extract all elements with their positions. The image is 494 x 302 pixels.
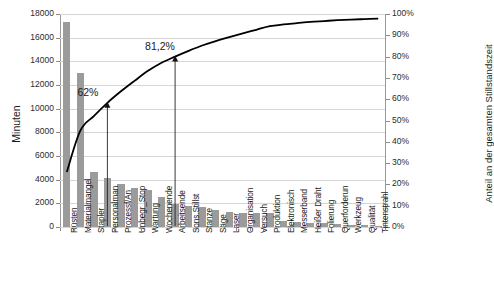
x-tick-mark — [344, 228, 345, 231]
x-tick-mark — [60, 228, 61, 231]
x-axis-label: Heißer Draht — [314, 187, 323, 233]
x-tick-mark — [304, 228, 305, 231]
x-tick-mark — [74, 228, 75, 231]
y-tick-label-right: 20% — [392, 178, 432, 188]
y-tick-mark-left — [56, 203, 60, 204]
x-tick-mark — [182, 228, 183, 231]
y-tick-label-right: 0% — [392, 221, 432, 231]
gridline — [60, 38, 385, 39]
x-axis-label: Materialmangel — [84, 178, 93, 233]
gridline — [60, 156, 385, 157]
x-axis-label: Unbegr_Stop — [138, 186, 147, 233]
y-tick-mark-left — [56, 180, 60, 181]
y-tick-label-left: 4000 — [10, 174, 54, 184]
y-tick-label-left: 16000 — [10, 32, 54, 42]
y-tick-label-left: 0 — [10, 221, 54, 231]
x-axis-label: Tintenstrahl — [381, 192, 390, 233]
y-tick-mark-left — [56, 85, 60, 86]
x-axis-label: Messerband — [300, 189, 309, 233]
y-tick-label-right: 10% — [392, 200, 432, 210]
y-tick-label-left: 14000 — [10, 55, 54, 65]
y-tick-label-right: 50% — [392, 115, 432, 125]
y-tick-mark-right — [386, 57, 390, 58]
x-tick-mark — [114, 228, 115, 231]
x-tick-mark — [223, 228, 224, 231]
x-tick-mark — [141, 228, 142, 231]
y-tick-label-right: 90% — [392, 29, 432, 39]
y-tick-label-left: 8000 — [10, 126, 54, 136]
y-tick-mark-left — [56, 156, 60, 157]
x-axis-label: Personalman — [111, 186, 120, 233]
y-tick-label-right: 60% — [392, 93, 432, 103]
y-tick-mark-right — [386, 35, 390, 36]
y-tick-mark-left — [56, 14, 60, 15]
x-axis-label: Arbeitsende — [178, 190, 187, 233]
y-tick-mark-right — [386, 14, 390, 15]
y-axis-title-right: Anteil an der gesamten Stillstandszeit — [483, 29, 494, 219]
gridline — [60, 109, 385, 110]
gridline — [60, 132, 385, 133]
y-tick-mark-left — [56, 109, 60, 110]
bar — [63, 22, 70, 227]
y-tick-mark-right — [386, 163, 390, 164]
x-axis-label: Organisation — [246, 188, 255, 233]
y-tick-mark-right — [386, 184, 390, 185]
y-tick-label-right: 80% — [392, 51, 432, 61]
x-tick-mark — [209, 228, 210, 231]
x-tick-mark — [290, 228, 291, 231]
y-tick-label-right: 100% — [392, 8, 432, 18]
x-tick-mark — [236, 228, 237, 231]
x-tick-mark — [128, 228, 129, 231]
y-tick-label-left: 18000 — [10, 8, 54, 18]
x-tick-mark — [87, 228, 88, 231]
y-tick-mark-right — [386, 99, 390, 100]
x-axis-label: Elektronisch — [287, 190, 296, 233]
y-tick-mark-left — [56, 61, 60, 62]
x-axis-label: Wochenende — [165, 186, 174, 233]
gridline — [60, 85, 385, 86]
annotation-label: 62% — [77, 86, 98, 98]
x-tick-mark — [168, 228, 169, 231]
x-axis-label: Querforderun — [341, 186, 350, 234]
y-tick-mark-left — [56, 132, 60, 133]
y-tick-label-left: 12000 — [10, 79, 54, 89]
x-tick-mark — [358, 228, 359, 231]
x-axis-label: Prozessf/An — [124, 190, 133, 233]
y-tick-mark-right — [386, 121, 390, 122]
y-tick-label-left: 6000 — [10, 150, 54, 160]
x-tick-mark — [371, 228, 372, 231]
x-tick-mark — [195, 228, 196, 231]
y-tick-label-right: 40% — [392, 136, 432, 146]
x-tick-mark — [331, 228, 332, 231]
x-tick-mark — [155, 228, 156, 231]
x-tick-mark — [317, 228, 318, 231]
y-tick-label-right: 30% — [392, 157, 432, 167]
y-tick-label-right: 70% — [392, 72, 432, 82]
x-tick-mark — [277, 228, 278, 231]
plot-area — [60, 14, 385, 227]
x-tick-mark — [250, 228, 251, 231]
gridline — [60, 14, 385, 15]
y-tick-mark-right — [386, 142, 390, 143]
x-tick-mark — [101, 228, 102, 231]
x-tick-mark — [263, 228, 264, 231]
gridline — [60, 61, 385, 62]
y-tick-label-left: 2000 — [10, 197, 54, 207]
x-tick-mark — [385, 228, 386, 231]
y-tick-mark-left — [56, 38, 60, 39]
y-tick-label-left: 10000 — [10, 103, 54, 113]
annotation-label: 81,2% — [145, 40, 175, 52]
y-tick-mark-right — [386, 78, 390, 79]
